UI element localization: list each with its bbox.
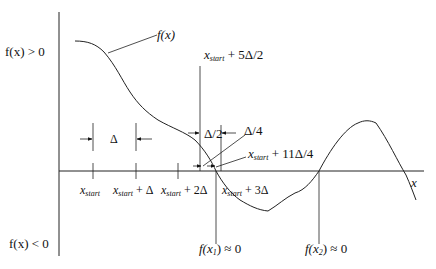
root-post: ) ≈ 0 — [217, 241, 241, 256]
tick-label-x-start-plus-delta: xstart + Δ — [113, 184, 153, 198]
region-above-label: f(x) > 0 — [5, 45, 45, 58]
root-post: ) ≈ 0 — [323, 241, 347, 256]
root2-label: f(x2) ≈ 0 — [305, 242, 347, 257]
tick-label-x-start: xstart — [80, 184, 100, 198]
root1-label: f(x1) ≈ 0 — [199, 242, 241, 257]
tick-label-x-start-plus-3delta: xstart + 3Δ — [222, 184, 268, 198]
anno-sub: start — [210, 54, 225, 63]
root-pre: f(x — [305, 241, 319, 256]
anno-suffix: + 11Δ/4 — [268, 146, 313, 161]
region-below-label: f(x) < 0 — [9, 237, 49, 250]
root-pre: f(x — [199, 241, 213, 256]
tick-label-x-start-plus-2delta: xstart + 2Δ — [161, 184, 207, 198]
tick-suffix: + Δ — [133, 183, 153, 197]
x-axis-label: x — [411, 176, 417, 189]
function-leader-line — [108, 35, 157, 53]
quarter-delta-label: Δ/4 — [244, 124, 262, 137]
tick-suffix: + 3Δ — [242, 183, 268, 197]
tick-sub: start — [227, 189, 242, 198]
function-label: f(x) — [157, 28, 175, 41]
five-half-delta-label: xstart + 5Δ/2 — [204, 48, 263, 63]
delta-label: Δ — [110, 133, 118, 145]
eleven-quarter-delta-label: xstart + 11Δ/4 — [248, 147, 313, 162]
tick-sub: start — [166, 189, 181, 198]
anno-suffix: + 5Δ/2 — [224, 47, 263, 62]
eleven-quarter-leader — [216, 157, 246, 167]
tick-sub: start — [85, 189, 100, 198]
anno-sub: start — [254, 153, 269, 162]
tick-sub: start — [118, 189, 133, 198]
half-delta-label: Δ/2 — [204, 127, 222, 140]
tick-suffix: + 2Δ — [181, 183, 207, 197]
